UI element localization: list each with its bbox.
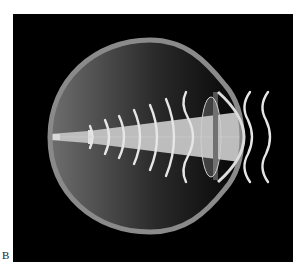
wavefronts-outside	[244, 92, 270, 182]
panel-label: B	[2, 249, 9, 261]
lens	[201, 97, 221, 177]
eye-diagram	[13, 14, 293, 262]
figure-panel	[13, 14, 293, 262]
